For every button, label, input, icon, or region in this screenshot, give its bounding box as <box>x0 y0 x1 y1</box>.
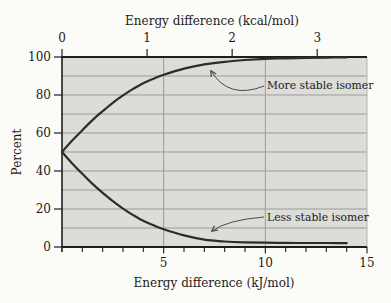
top-axis-tick-label: 3 <box>313 31 321 45</box>
left-axis-title: Percent <box>10 128 24 175</box>
top-axis-tick-label: 1 <box>143 31 151 45</box>
isomer-percent-chart: 012310080604020051015More stable isomerL… <box>0 0 391 303</box>
annotation-more-stable-label: More stable isomer <box>267 79 374 92</box>
bottom-axis-tick-label: 10 <box>258 256 273 270</box>
figure: 012310080604020051015More stable isomerL… <box>0 0 391 303</box>
left-axis-tick-label: 20 <box>36 202 51 216</box>
top-axis-tick-label: 2 <box>228 31 236 45</box>
plot-area: 012310080604020051015More stable isomerL… <box>28 31 375 270</box>
left-axis-tick-label: 0 <box>43 240 51 254</box>
left-axis-tick-label: 80 <box>36 88 51 102</box>
bottom-axis-title: Energy difference (kJ/mol) <box>134 276 295 290</box>
bottom-axis-tick-label: 5 <box>160 256 168 270</box>
left-axis-tick-label: 40 <box>36 164 51 178</box>
left-axis-tick-label: 100 <box>28 50 51 64</box>
bottom-axis-tick-label: 15 <box>359 256 374 270</box>
annotation-less-stable-label: Less stable isomer <box>267 211 370 224</box>
top-axis-title: Energy difference (kcal/mol) <box>125 14 299 28</box>
left-axis-tick-label: 60 <box>36 126 51 140</box>
top-axis-tick-label: 0 <box>58 31 66 45</box>
